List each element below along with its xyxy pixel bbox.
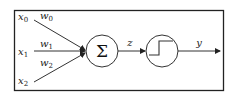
- input-x2: x2: [18, 75, 28, 88]
- sigma-icon: Σ: [96, 41, 108, 61]
- activation-node: [146, 35, 178, 67]
- z-label: z: [126, 37, 133, 48]
- weight-w2: w2: [40, 57, 53, 70]
- weight-w1: w1: [40, 38, 53, 51]
- svg-text:w0: w0: [40, 10, 53, 23]
- input-x1: x1: [18, 46, 28, 59]
- svg-text:x1: x1: [18, 46, 28, 59]
- svg-text:w1: w1: [40, 38, 53, 51]
- y-label: y: [195, 37, 202, 48]
- input-x0: x0: [18, 11, 28, 24]
- svg-text:w2: w2: [40, 57, 53, 70]
- weight-w0: w0: [40, 10, 53, 23]
- sum-node: Σ: [86, 35, 118, 67]
- svg-text:x2: x2: [18, 75, 28, 88]
- svg-text:x0: x0: [18, 11, 28, 24]
- perceptron-diagram: x0 w0 x1 w1 x2 w2 Σ z y: [0, 0, 236, 99]
